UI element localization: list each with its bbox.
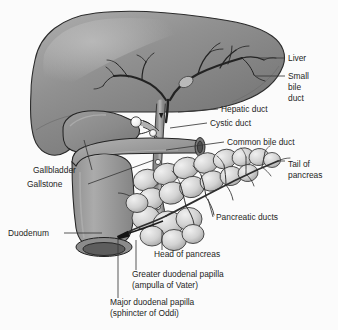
anatomy-diagram: Liver Smallbileduct Hepatic duct Cystic … [0,0,338,330]
label-gallbladder: Gallbladder [33,165,76,175]
label-hepatic-duct: Hepatic duct [221,104,268,114]
gallstone-cystic [150,130,157,137]
gallstone-neck [131,117,141,127]
label-duodenum: Duodenum [8,228,49,238]
label-liver: Liver [288,53,306,63]
label-pancreatic-ducts: Pancreatic ducts [216,212,278,222]
duodenum-lumen [83,243,125,256]
duodenum-open-lumen [197,141,202,153]
label-common-bile-duct: Common bile duct [227,137,295,147]
label-gallstone: Gallstone [27,179,63,189]
label-head-of-pancreas: Head of pancreas [154,249,220,259]
label-cystic-duct: Cystic duct [210,118,252,128]
gallstone-cbd-1 [155,159,160,164]
